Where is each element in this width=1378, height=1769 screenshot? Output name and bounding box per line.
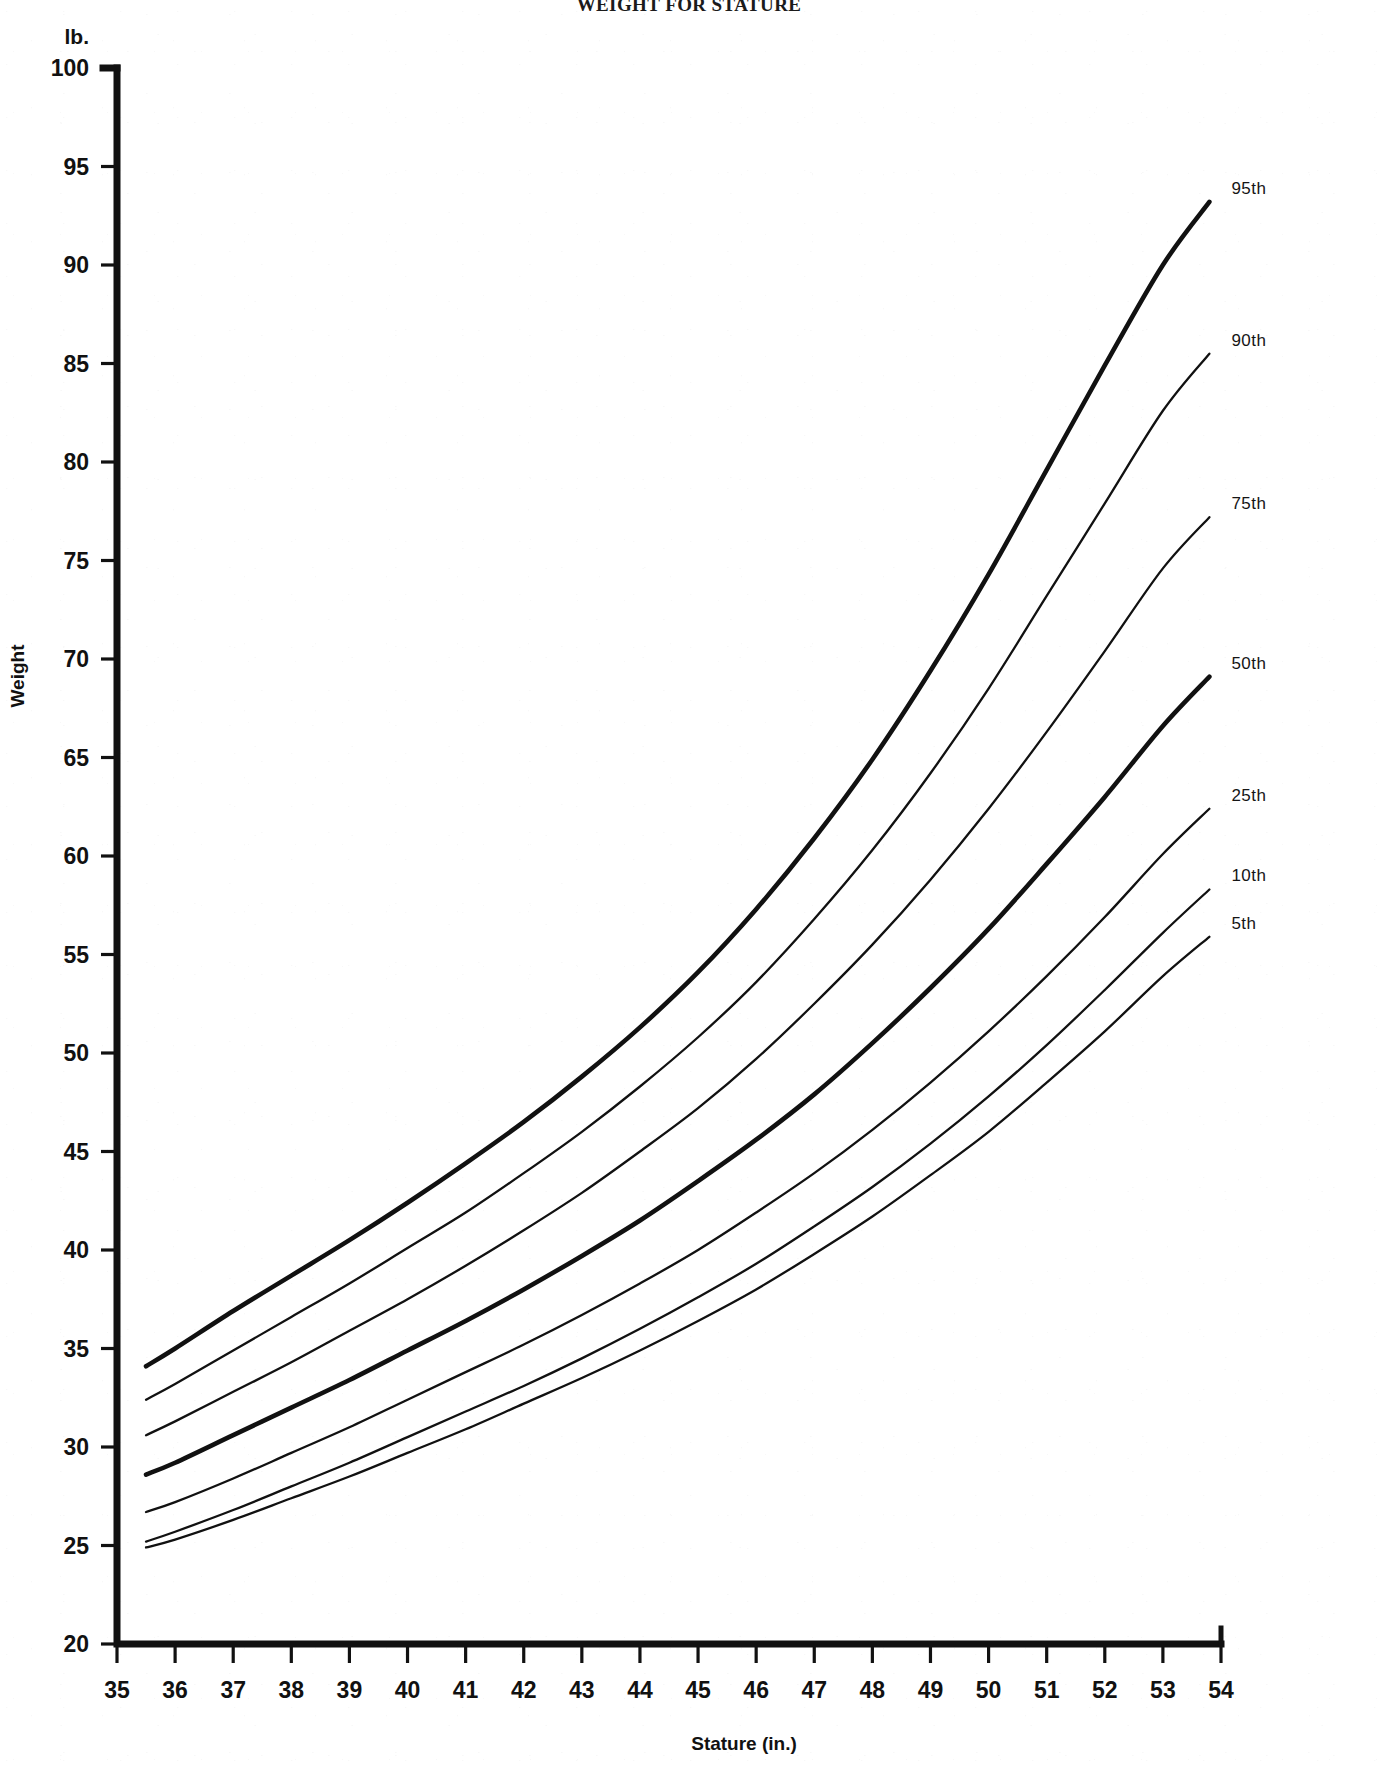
x-tick-label: 37 xyxy=(220,1677,246,1703)
y-tick-label: 45 xyxy=(63,1139,89,1165)
percentile-curve-5th xyxy=(146,937,1209,1548)
x-tick-label: 35 xyxy=(104,1677,130,1703)
x-tick-label: 45 xyxy=(685,1677,711,1703)
percentile-label-95th: 95th xyxy=(1231,179,1266,198)
weight-for-stature-chart: 20253035404550556065707580859095100 3536… xyxy=(0,0,1378,1769)
x-tick-label: 46 xyxy=(743,1677,769,1703)
y-axis-ticks: 20253035404550556065707580859095100 xyxy=(51,55,116,1657)
axis-titles: lb.Stature (in.)Weight xyxy=(7,25,797,1754)
percentile-label-90th: 90th xyxy=(1231,331,1266,350)
percentile-curve-25th xyxy=(146,809,1209,1512)
percentile-label-50th: 50th xyxy=(1231,654,1266,673)
y-tick-label: 85 xyxy=(63,351,89,377)
y-tick-label: 40 xyxy=(63,1237,89,1263)
y-tick-label: 55 xyxy=(63,942,89,968)
x-axis-title: Stature (in.) xyxy=(691,1733,797,1754)
percentile-curves xyxy=(146,202,1209,1548)
x-tick-label: 50 xyxy=(976,1677,1002,1703)
x-tick-label: 41 xyxy=(453,1677,479,1703)
percentile-labels: 95th90th75th50th25th10th5th xyxy=(1231,179,1266,933)
y-tick-label: 65 xyxy=(63,745,89,771)
x-tick-label: 47 xyxy=(801,1677,827,1703)
x-tick-label: 38 xyxy=(279,1677,305,1703)
x-tick-label: 51 xyxy=(1034,1677,1060,1703)
x-tick-label: 52 xyxy=(1092,1677,1118,1703)
x-tick-label: 36 xyxy=(162,1677,188,1703)
y-tick-label: 75 xyxy=(63,548,89,574)
x-tick-label: 54 xyxy=(1208,1677,1234,1703)
x-tick-label: 53 xyxy=(1150,1677,1176,1703)
x-tick-label: 43 xyxy=(569,1677,595,1703)
x-tick-label: 39 xyxy=(337,1677,363,1703)
x-tick-label: 42 xyxy=(511,1677,537,1703)
percentile-label-10th: 10th xyxy=(1231,866,1266,885)
y-tick-label: 35 xyxy=(63,1336,89,1362)
y-tick-label: 100 xyxy=(51,55,89,81)
percentile-curve-95th xyxy=(146,202,1209,1366)
percentile-curve-75th xyxy=(146,517,1209,1435)
percentile-label-5th: 5th xyxy=(1231,914,1256,933)
y-tick-label: 90 xyxy=(63,252,89,278)
percentile-label-75th: 75th xyxy=(1231,494,1266,513)
x-tick-label: 40 xyxy=(395,1677,421,1703)
y-tick-label: 30 xyxy=(63,1434,89,1460)
x-tick-label: 48 xyxy=(860,1677,886,1703)
y-tick-label: 80 xyxy=(63,449,89,475)
y-tick-label: 70 xyxy=(63,646,89,672)
y-tick-label: 60 xyxy=(63,843,89,869)
percentile-label-25th: 25th xyxy=(1231,786,1266,805)
y-axis-unit-label: lb. xyxy=(65,25,90,48)
percentile-curve-10th xyxy=(146,889,1209,1541)
y-tick-label: 20 xyxy=(63,1631,89,1657)
y-axis-title: Weight xyxy=(7,644,28,708)
x-tick-label: 49 xyxy=(918,1677,944,1703)
x-axis-ticks: 3536373839404142434445464748495051525354 xyxy=(104,1646,1234,1703)
x-tick-label: 44 xyxy=(627,1677,653,1703)
y-tick-label: 50 xyxy=(63,1040,89,1066)
percentile-curve-90th xyxy=(146,354,1209,1400)
y-tick-label: 25 xyxy=(63,1533,89,1559)
y-tick-label: 95 xyxy=(63,154,89,180)
